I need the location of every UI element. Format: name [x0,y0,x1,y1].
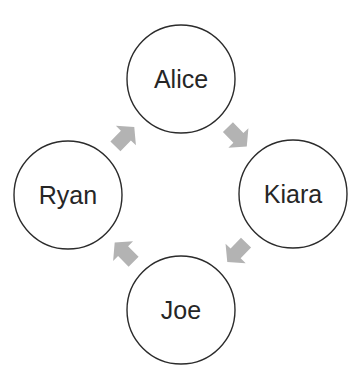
node-ryan-label: Ryan [39,181,97,209]
node-joe[interactable]: Joe [127,256,235,364]
node-joe-label: Joe [161,296,201,324]
arrow-kiara-to-joe-icon [217,233,256,272]
arrow-ryan-to-alice-icon [105,117,144,156]
node-kiara-label: Kiara [264,180,322,208]
arrow-alice-to-kiara-icon [218,117,257,156]
node-ryan[interactable]: Ryan [14,141,122,249]
node-kiara[interactable]: Kiara [239,140,347,248]
arrow-joe-to-ryan-icon [105,233,144,272]
node-alice-label: Alice [154,65,208,93]
node-alice[interactable]: Alice [127,25,235,133]
cycle-diagram: Alice Kiara Joe Ryan [0,0,363,381]
